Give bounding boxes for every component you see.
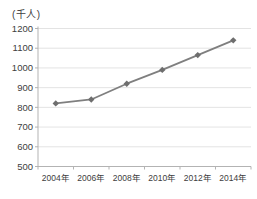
data-line — [56, 40, 234, 103]
y-axis-tick-label: 700 — [17, 121, 33, 132]
y-axis-tick-label: 1100 — [13, 42, 33, 53]
y-axis-tick-label: 900 — [17, 82, 33, 93]
data-point-marker — [53, 100, 59, 106]
x-axis-tick-label: 2004年 — [42, 173, 70, 183]
data-point-marker — [195, 52, 201, 58]
x-axis-tick-label: 2012年 — [184, 173, 212, 183]
chart-canvas: 5006007008009001000110012002004年2006年200… — [0, 0, 257, 199]
x-axis-tick-label: 2006年 — [77, 173, 105, 183]
y-axis-tick-label: 1000 — [12, 62, 33, 73]
data-point-marker — [124, 81, 130, 87]
y-axis-tick-label: 800 — [17, 102, 33, 113]
y-axis-tick-label: 600 — [17, 141, 33, 152]
y-axis-tick-label: 500 — [17, 161, 33, 172]
x-axis-tick-label: 2008年 — [113, 173, 141, 183]
data-point-marker — [230, 37, 236, 43]
x-axis-tick-label: 2010年 — [148, 173, 176, 183]
x-axis-tick-label: 2014年 — [219, 173, 247, 183]
line-chart: (千人) 5006007008009001000110012002004年200… — [0, 0, 257, 199]
data-point-marker — [88, 96, 94, 102]
y-axis-tick-label: 1200 — [12, 23, 33, 34]
